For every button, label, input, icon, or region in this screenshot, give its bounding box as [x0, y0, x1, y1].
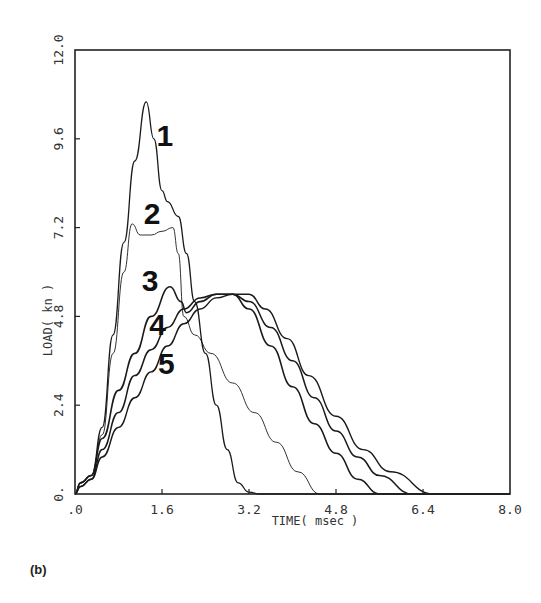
y-tick-label: 12.0 — [51, 34, 66, 65]
load-time-chart: 0.2.44.87.29.612.0 .01.63.24.86.48.0 LOA… — [0, 0, 541, 603]
plot-area — [75, 102, 510, 494]
curve-labels: 12345 — [142, 119, 175, 380]
y-tick-label: 7.2 — [51, 216, 66, 239]
y-tick-label: 9.6 — [51, 127, 66, 150]
x-tick-label: 1.6 — [150, 502, 173, 517]
curve-label-1: 1 — [156, 119, 173, 152]
plot-frame — [75, 50, 510, 494]
x-tick-label: .0 — [67, 502, 83, 517]
x-tick-label: 6.4 — [411, 502, 435, 517]
x-tick-label: 3.2 — [237, 502, 260, 517]
y-axis-title: LOAD( kn ) — [41, 284, 55, 356]
curve-5 — [75, 294, 510, 494]
curve-1 — [75, 102, 510, 494]
y-tick-label: 2.4 — [51, 393, 66, 417]
x-axis-title: TIME( msec ) — [272, 514, 359, 528]
x-tick-label: 8.0 — [498, 502, 521, 517]
figure-caption: (b) — [30, 562, 47, 577]
curve-label-3: 3 — [142, 264, 159, 297]
curve-label-5: 5 — [158, 347, 175, 380]
curve-label-4: 4 — [149, 308, 166, 341]
y-tick-label: 0. — [51, 486, 66, 502]
curve-label-2: 2 — [144, 197, 161, 230]
curve-2 — [75, 224, 510, 494]
